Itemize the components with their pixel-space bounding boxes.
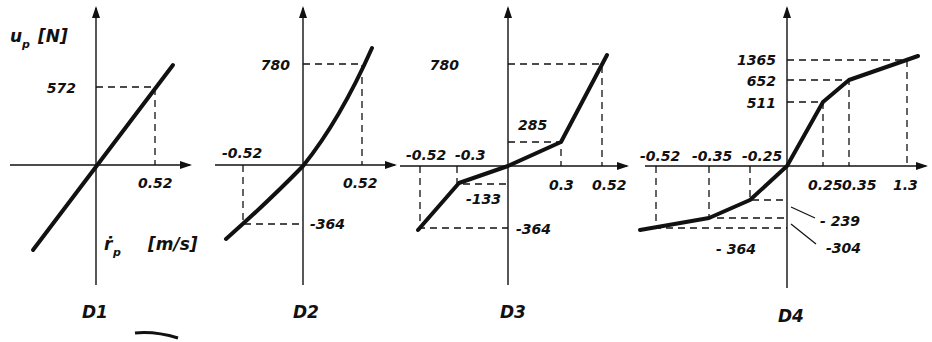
d4-curve: [640, 56, 918, 230]
d4-leader-239: [791, 207, 815, 218]
chart-d3: 780 285 -133 -364 -0.52 -0.3 0.3 0.52 D3: [400, 8, 627, 322]
d4-y-tick-364: - 364: [716, 241, 756, 257]
d3-y-tick-364: -364: [516, 221, 551, 237]
d4-y-tick-239: - 239: [820, 213, 860, 229]
d4-guide-304: [709, 166, 787, 218]
d1-x-tick: 0.52: [138, 175, 173, 191]
svg-text:[N]: [N]: [37, 26, 68, 46]
d2-x-tick-pos: 0.52: [343, 175, 378, 191]
svg-text:[m/s]: [m/s]: [147, 234, 198, 254]
svg-text:p: p: [21, 38, 30, 51]
d1-title: D1: [82, 302, 108, 322]
d2-title: D2: [293, 302, 319, 322]
d4-guide-364: [656, 166, 787, 228]
d3-x-tick-052: 0.52: [592, 177, 627, 193]
d4-x-tick-035n: -0.35: [692, 148, 733, 164]
stray-mark: [135, 333, 178, 338]
d4-x-tick-035: 0.35: [842, 177, 877, 193]
x-axis-title: ṙ p [m/s]: [104, 234, 198, 259]
d1-y-tick: 572: [47, 80, 76, 96]
d3-guide-780: [508, 64, 602, 166]
d4-x-tick-025n: -0.25: [742, 148, 783, 164]
d3-y-tick-285: 285: [518, 117, 547, 133]
d4-x-tick-025: 0.25: [808, 177, 843, 193]
d4-y-tick-511: 511: [747, 95, 776, 111]
d4-x-tick-052n: -0.52: [640, 148, 680, 164]
d4-leader-304: [791, 224, 816, 244]
d2-y-tick-neg: -364: [310, 216, 345, 232]
svg-text:p: p: [112, 246, 121, 259]
chart-d1: 572 0.52 u p [N] ṙ p [m/s] D1: [10, 8, 198, 338]
d3-y-tick-133: -133: [466, 191, 501, 207]
d3-x-tick-03: 0.3: [549, 177, 574, 193]
d2-y-tick-pos: 780: [261, 57, 290, 73]
chart-d2: 780 -364 -0.52 0.52 D2: [215, 8, 395, 322]
d4-x-tick-13: 1.3: [893, 177, 918, 193]
d3-y-tick-780: 780: [430, 57, 459, 73]
svg-text:u: u: [10, 26, 22, 46]
d4-y-tick-1365: 1365: [737, 52, 776, 68]
chart-d4: 1365 652 511 - 239 -304 - 364 -0.52 -0.3…: [640, 8, 926, 326]
d2-x-tick-neg: -0.52: [222, 145, 262, 161]
d4-title: D4: [778, 306, 804, 326]
d2-guide-pos: [303, 64, 362, 165]
d4-y-tick-304: -304: [826, 240, 861, 256]
d3-x-tick-052n: -0.52: [406, 147, 446, 163]
d4-y-tick-652: 652: [747, 73, 776, 89]
d3-x-tick-03n: -0.3: [455, 147, 486, 163]
d4-guide-1365: [787, 60, 907, 166]
y-axis-title: u p [N]: [10, 26, 68, 51]
d2-curve: [226, 48, 372, 239]
d3-title: D3: [500, 302, 526, 322]
diagram-canvas: 572 0.52 u p [N] ṙ p [m/s] D1 780 -364 -…: [0, 0, 932, 342]
